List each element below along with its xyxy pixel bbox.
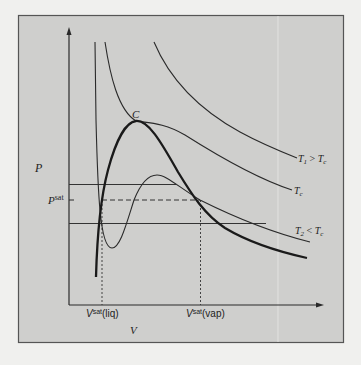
vsat-liq-label: Vsat(liq) xyxy=(86,308,119,319)
pv-diagram: C P Psat T1 > Tc Tc T2 < Tc Vsat(liq) Vs… xyxy=(0,0,361,365)
y-axis-label: P xyxy=(34,161,43,175)
psat-sup: sat xyxy=(55,193,65,202)
critical-point-label: C xyxy=(132,108,140,120)
vsat-vap-label: Vsat(vap) xyxy=(186,308,225,319)
